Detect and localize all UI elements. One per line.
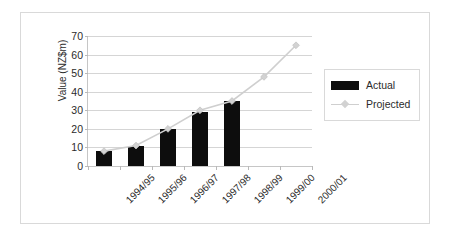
data-point-marker bbox=[133, 142, 140, 149]
x-tick-label: 1994/95 bbox=[124, 172, 157, 205]
legend-label-actual: Actual bbox=[366, 79, 395, 91]
y-tick-label: 30 bbox=[71, 104, 83, 116]
projected-line bbox=[104, 45, 296, 151]
y-tick-label: 40 bbox=[71, 86, 83, 98]
x-tick-label: 1998/99 bbox=[252, 172, 285, 205]
y-tick-label: 20 bbox=[71, 123, 83, 135]
y-tick-label: 50 bbox=[71, 67, 83, 79]
x-tick-mark bbox=[248, 166, 249, 170]
x-tick-mark bbox=[120, 166, 121, 170]
plot-area: 010203040506070 1994/951995/961996/97199… bbox=[87, 36, 312, 167]
x-tick-label: 1995/96 bbox=[156, 172, 189, 205]
x-tick-mark bbox=[88, 166, 89, 170]
legend-swatch-bar-icon bbox=[331, 81, 359, 90]
x-tick-label: 1996/97 bbox=[188, 172, 221, 205]
legend-item-projected: Projected bbox=[331, 97, 410, 111]
legend-item-actual: Actual bbox=[331, 78, 395, 92]
legend-label-projected: Projected bbox=[366, 98, 410, 110]
y-tick-label: 60 bbox=[71, 49, 83, 61]
y-tick-label: 0 bbox=[77, 160, 83, 172]
y-tick-label: 10 bbox=[71, 141, 83, 153]
legend-swatch-line-icon bbox=[331, 100, 359, 109]
x-tick-mark bbox=[184, 166, 185, 170]
y-tick-label: 70 bbox=[71, 30, 83, 42]
y-axis-title: Value (NZ$m) bbox=[57, 16, 68, 126]
x-tick-mark bbox=[280, 166, 281, 170]
x-tick-mark bbox=[312, 166, 313, 170]
x-tick-label: 1997/98 bbox=[220, 172, 253, 205]
x-tick-mark bbox=[152, 166, 153, 170]
x-tick-mark bbox=[216, 166, 217, 170]
chart-legend: Actual Projected bbox=[324, 69, 420, 121]
data-point-marker bbox=[197, 107, 204, 114]
x-tick-label: 1999/00 bbox=[284, 172, 317, 205]
x-tick-label: 2000/01 bbox=[316, 172, 349, 205]
chart-figure: Value (NZ$m) 010203040506070 1994/951995… bbox=[20, 12, 430, 224]
line-series-projected bbox=[88, 36, 312, 166]
data-point-marker bbox=[101, 148, 108, 155]
data-point-marker bbox=[165, 125, 172, 132]
